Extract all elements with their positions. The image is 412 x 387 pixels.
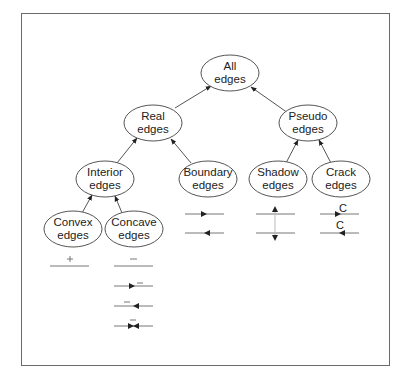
- label-line2: edges: [325, 179, 356, 192]
- crack-label-bottom: C: [336, 219, 344, 231]
- label-line1: Convex: [54, 216, 93, 229]
- shadow-symbols: [256, 210, 295, 237]
- label-line1: Crack: [325, 166, 356, 179]
- label-line2: edges: [137, 123, 168, 136]
- label-boundary-edges: Boundary edges: [183, 166, 232, 192]
- label-line2: edges: [288, 123, 327, 136]
- arrow-boundary-to-real: [171, 139, 191, 163]
- arrow-crack-to-pseudo: [319, 140, 331, 163]
- label-line2: edges: [257, 179, 299, 192]
- label-crack-edges: Crack edges: [325, 166, 356, 192]
- concave-symbols: [114, 259, 153, 326]
- label-pseudo-edges: Pseudo edges: [288, 110, 327, 136]
- label-real-edges: Real edges: [137, 110, 168, 136]
- label-line2: edges: [183, 179, 232, 192]
- label-line1: Interior: [87, 166, 123, 179]
- label-line2: edges: [54, 229, 93, 242]
- label-line1: Shadow: [257, 166, 299, 179]
- boundary-symbols: [185, 214, 224, 233]
- arrow-pseudo-to-all: [251, 87, 288, 113]
- label-line2: edges: [87, 179, 123, 192]
- label-line2: edges: [214, 73, 245, 86]
- label-concave-edges: Concave edges: [111, 216, 156, 242]
- arrow-shadow-to-pseudo: [286, 140, 298, 163]
- label-all-edges: All edges: [214, 60, 245, 86]
- boundary-arrowheads: [201, 211, 210, 236]
- crack-label-top: C: [339, 202, 347, 214]
- label-line1: Pseudo: [288, 110, 327, 123]
- arrow-concave-to-interior: [115, 196, 122, 213]
- label-convex-edges: Convex edges: [54, 216, 93, 242]
- arrow-convex-to-interior: [82, 195, 92, 213]
- label-line1: All: [214, 60, 245, 73]
- label-shadow-edges: Shadow edges: [257, 166, 299, 192]
- convex-symbol: [50, 256, 89, 266]
- arrow-real-to-all: [175, 86, 211, 108]
- arrow-interior-to-real: [117, 138, 137, 163]
- label-line2: edges: [111, 229, 156, 242]
- label-line1: Real: [137, 110, 168, 123]
- label-line1: Boundary: [183, 166, 232, 179]
- label-line1: Concave: [111, 216, 156, 229]
- edge-tree-diagram: [0, 0, 412, 387]
- label-interior-edges: Interior edges: [87, 166, 123, 192]
